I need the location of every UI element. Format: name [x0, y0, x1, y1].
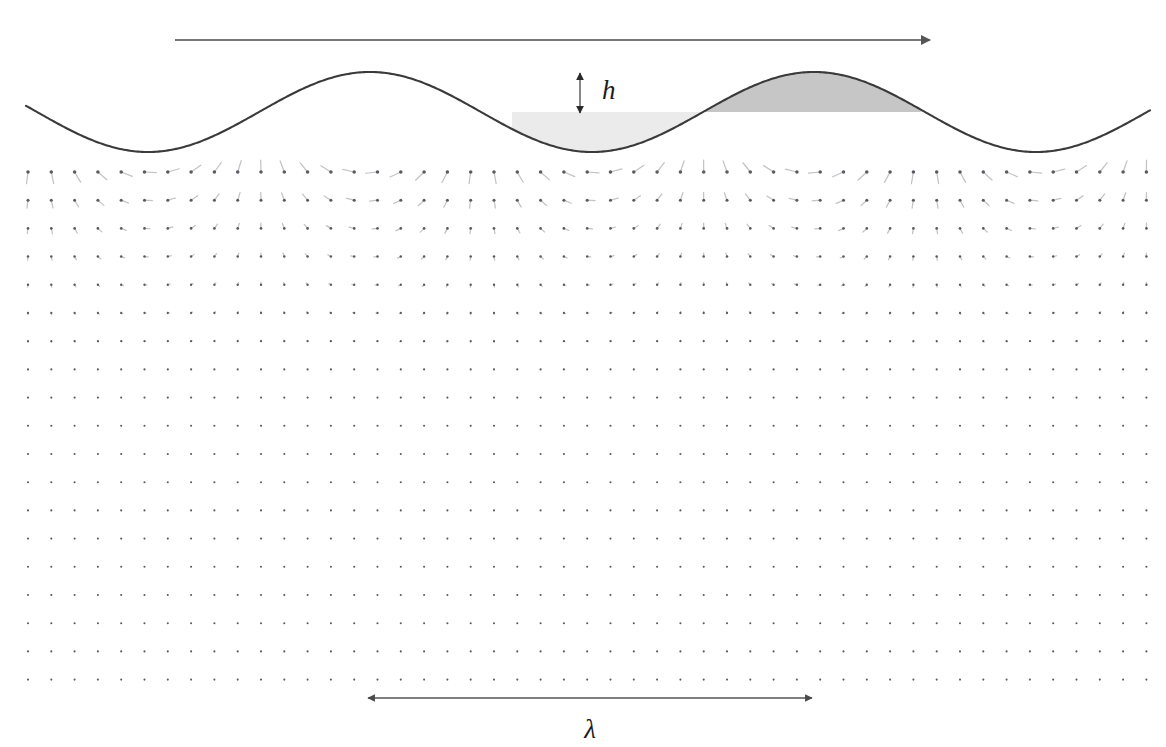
fluid-particle-marker: [446, 340, 448, 342]
fluid-particle-marker: [423, 255, 426, 258]
fluid-particle-marker: [726, 679, 728, 681]
fluid-particle-marker: [679, 453, 681, 455]
fluid-particle-marker: [493, 650, 495, 652]
fluid-particle-marker: [516, 679, 518, 681]
fluid-particle-marker: [446, 538, 448, 540]
velocity-vector-tail: [416, 172, 425, 180]
velocity-vector-tail: [983, 172, 992, 180]
fluid-particle-marker: [936, 650, 938, 652]
velocity-vector-tail: [517, 172, 523, 182]
fluid-particle-marker: [167, 284, 169, 286]
fluid-particle-marker: [563, 622, 565, 624]
fluid-particle-marker: [1145, 368, 1147, 370]
fluid-particle-marker: [1029, 397, 1031, 399]
fluid-particle-marker: [679, 170, 683, 174]
fluid-particle-marker: [470, 368, 472, 370]
fluid-particle-marker: [283, 481, 285, 483]
fluid-particle-marker: [935, 170, 939, 174]
fluid-particle-marker: [74, 453, 76, 455]
velocity-vector-tail: [1007, 172, 1018, 177]
fluid-particle-marker: [190, 453, 192, 455]
fluid-particle-marker: [493, 679, 495, 681]
fluid-particle-marker: [609, 481, 611, 483]
fluid-particle-marker: [120, 679, 122, 681]
fluid-particle-marker: [982, 340, 984, 342]
fluid-particle-marker: [1122, 650, 1124, 652]
fluid-particle-marker: [423, 284, 425, 286]
fluid-particle-marker: [539, 170, 543, 174]
fluid-particle-marker: [749, 284, 751, 286]
fluid-particle-marker: [656, 397, 658, 399]
fluid-particle-marker: [679, 284, 681, 286]
fluid-particle-marker: [469, 227, 472, 230]
fluid-particle-marker: [586, 227, 589, 230]
fluid-particle-marker: [936, 312, 938, 314]
fluid-particle-marker: [97, 284, 99, 286]
fluid-particle-marker: [796, 453, 798, 455]
fluid-particle-marker: [656, 312, 658, 314]
fluid-particle-marker: [50, 368, 52, 370]
fluid-particle-marker: [889, 566, 891, 568]
fluid-particle-marker: [376, 453, 378, 455]
fluid-particle-marker: [609, 340, 611, 342]
fluid-particle-marker: [866, 312, 868, 314]
fluid-particle-marker: [586, 538, 588, 540]
fluid-particle-marker: [307, 622, 309, 624]
fluid-particle-marker: [237, 650, 239, 652]
fluid-particle-marker: [97, 538, 99, 540]
velocity-vector-tail: [960, 172, 966, 182]
fluid-particle-marker: [912, 679, 914, 681]
fluid-particle-marker: [237, 594, 239, 596]
fluid-particle-marker: [819, 679, 821, 681]
fluid-particle-marker: [1005, 312, 1007, 314]
fluid-particle-marker: [1099, 368, 1101, 370]
fluid-particle-marker: [1145, 481, 1147, 483]
fluid-particle-marker: [283, 312, 285, 314]
fluid-particle-marker: [609, 425, 611, 427]
fluid-particle-marker: [353, 340, 355, 342]
fluid-particle-marker: [936, 397, 938, 399]
fluid-particle-marker: [912, 538, 914, 540]
fluid-particle-marker: [237, 538, 239, 540]
fluid-particle-marker: [1145, 679, 1147, 681]
fluid-particle-marker: [772, 170, 776, 174]
fluid-particle-marker: [400, 312, 402, 314]
fluid-particle-marker: [120, 481, 122, 483]
fluid-particle-marker: [540, 650, 542, 652]
fluid-particle-marker: [190, 679, 192, 681]
fluid-particle-marker: [749, 199, 752, 202]
velocity-vector-tail: [300, 163, 308, 172]
fluid-particle-marker: [632, 227, 635, 230]
fluid-particle-marker: [446, 227, 449, 230]
fluid-particle-marker: [446, 368, 448, 370]
fluid-particle-marker: [702, 170, 706, 174]
fluid-particle-marker: [1005, 284, 1007, 286]
fluid-particle-marker: [120, 255, 123, 258]
fluid-particle-marker: [609, 453, 611, 455]
fluid-particle-marker: [796, 594, 798, 596]
wavelength-label: λ: [583, 714, 596, 744]
fluid-particle-marker: [470, 622, 472, 624]
velocity-vector-tail: [937, 172, 939, 184]
fluid-particle-marker: [633, 509, 635, 511]
fluid-particle-marker: [143, 679, 145, 681]
fluid-particle-marker: [1122, 284, 1124, 286]
fluid-particle-marker: [633, 425, 635, 427]
velocity-vector-tail: [1053, 169, 1064, 172]
fluid-particle-marker: [167, 453, 169, 455]
fluid-particle-marker: [330, 284, 332, 286]
fluid-particle-marker: [889, 509, 891, 511]
fluid-particle-marker: [50, 679, 52, 681]
fluid-particle-marker: [307, 368, 309, 370]
fluid-particle-marker: [563, 368, 565, 370]
fluid-particle-marker: [586, 284, 588, 286]
fluid-particle-marker: [796, 368, 798, 370]
fluid-particle-marker: [399, 227, 402, 230]
fluid-particle-marker: [1006, 340, 1008, 342]
fluid-particle-marker: [1006, 566, 1008, 568]
fluid-particle-marker: [27, 284, 29, 286]
fluid-particle-marker: [423, 509, 425, 511]
fluid-particle-marker: [679, 368, 681, 370]
fluid-particle-marker: [259, 170, 263, 174]
fluid-particle-marker: [446, 566, 448, 568]
